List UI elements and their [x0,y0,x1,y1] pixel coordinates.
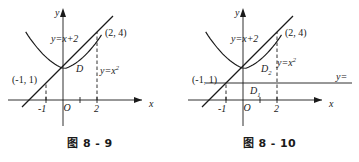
x-tick-label-minus1: -1 [38,103,46,114]
line-y-eq-x-plus-2 [22,16,113,107]
y-axis-arrow [240,8,246,17]
x-tick-label-minus1: -1 [218,103,226,114]
x-tick-label-2: 2 [274,103,279,114]
line-equation-label: y=x+2 [50,33,78,44]
point-label-minus1-1: (-1, 1) [192,74,217,86]
x-axis-label: x [148,98,154,109]
plot-svg-left: x y O -1 2 y=x+2 y=x2 (2, 4) (-1, 1) D [0,0,180,132]
plot-area-right: x y O -1 2 y=x+2 y=x2 y= (2, 4) (-1, 1) … [180,0,359,132]
figure-pair-container: x y O -1 2 y=x+2 y=x2 (2, 4) (-1, 1) D 图… [0,0,359,162]
origin-label: O [64,102,71,113]
region-label-D2: D2 [260,63,272,76]
x-axis-arrow [314,97,322,103]
point-label-2-4: (2, 4) [285,27,307,39]
figure-caption-right: 图 8 - 10 [180,134,359,150]
region-label-D: D [75,63,84,74]
figure-8-9: x y O -1 2 y=x+2 y=x2 (2, 4) (-1, 1) D 图… [0,0,180,162]
parabola-equation-label: y=x2 [99,64,120,76]
region-label-D1: D1 [249,85,260,98]
plot-area-left: x y O -1 2 y=x+2 y=x2 (2, 4) (-1, 1) D [0,0,180,132]
point-label-2-4: (2, 4) [105,27,127,39]
y-axis-label: y [54,7,60,18]
y-axis-label: y [234,7,240,18]
line-equation-label: y=x+2 [230,33,258,44]
y-axis-arrow [60,8,66,17]
plot-svg-right: x y O -1 2 y=x+2 y=x2 y= (2, 4) (-1, 1) … [180,0,359,132]
horizontal-line-label: y= [335,71,347,82]
x-axis-label: x [328,98,334,109]
x-tick-label-2: 2 [94,103,99,114]
parabola-equation-label: y=x2 [276,56,297,68]
x-axis-arrow [134,97,142,103]
origin-label: O [244,102,251,113]
figure-caption-left: 图 8 - 9 [0,134,180,150]
figure-8-10: x y O -1 2 y=x+2 y=x2 y= (2, 4) (-1, 1) … [180,0,359,162]
point-label-minus1-1: (-1, 1) [12,74,37,86]
